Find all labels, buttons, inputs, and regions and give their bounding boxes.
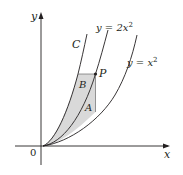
y-axis-label: y <box>30 10 38 23</box>
curve-2x2-label-sup: 2 <box>128 21 132 29</box>
origin-label: 0 <box>30 147 36 158</box>
curve-c-label: C <box>72 38 81 51</box>
point-p-label: P <box>98 67 107 80</box>
curve-2x2-label-main: y = 2x <box>95 22 129 33</box>
curve-x2-label-sup: 2 <box>153 56 157 64</box>
region-a-label: A <box>84 102 92 113</box>
y-axis-arrow-icon <box>39 12 44 19</box>
point-p-marker <box>94 72 97 75</box>
diagram-canvas: y x 0 C y = 2x2 y = x2 P B A <box>0 0 183 175</box>
x-axis-label: x <box>164 148 171 161</box>
curve-2x2-label: y = 2x2 <box>95 21 133 33</box>
curve-x2-label: y = x2 <box>126 56 158 68</box>
curve-x2-label-main: y = x <box>126 57 153 68</box>
region-b-label: B <box>78 79 86 90</box>
